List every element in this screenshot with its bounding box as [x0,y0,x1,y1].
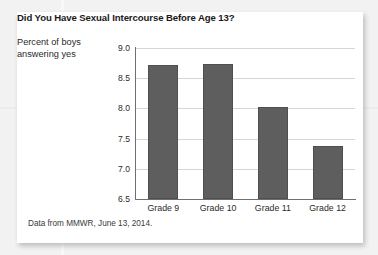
y-axis-tick-label: 7.0 [104,164,130,174]
plot-area [136,48,355,199]
bar [313,146,343,199]
chart-title: Did You Have Sexual Intercourse Before A… [17,12,317,23]
y-axis-tick-label: 9.0 [104,43,130,53]
gridline [136,48,355,49]
bar [148,65,178,199]
y-axis-tick-label: 6.5 [104,194,130,204]
y-axis-tick-label: 7.5 [104,134,130,144]
x-axis-line [135,199,356,200]
y-axis-tick-label: 8.0 [104,103,130,113]
y-axis-tick-label: 8.5 [104,73,130,83]
bar [258,107,288,199]
bar [203,64,233,199]
x-axis-tick-label: Grade 10 [190,203,246,213]
y-axis-line [135,47,136,200]
source-note: Data from MMWR, June 13, 2014. [28,219,152,228]
x-axis-tick-label: Grade 11 [245,203,301,213]
y-axis-title-line-2: answering yes [17,48,109,60]
x-axis-tick-label: Grade 9 [135,203,191,213]
y-axis-title: Percent of boys answering yes [17,36,109,60]
y-axis-title-line-1: Percent of boys [17,36,109,48]
x-axis-tick-label: Grade 12 [300,203,356,213]
y-axis-tick-labels: 9.08.58.07.57.06.5 [102,48,130,199]
